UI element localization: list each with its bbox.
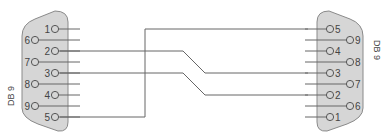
pin-number: 4 — [44, 90, 50, 101]
wire-l3-r2 — [60, 73, 308, 95]
right-connector-label: DB 9 — [372, 40, 382, 60]
pin-number: 2 — [335, 90, 341, 101]
null-modem-diagram: 162738495 594837261 DB 9 DB 9 — [0, 0, 387, 140]
pin-number: 5 — [44, 112, 50, 123]
pin-number: 8 — [24, 79, 30, 90]
pin-number: 4 — [335, 46, 341, 57]
pin-number: 9 — [24, 101, 30, 112]
pin-number: 5 — [335, 24, 341, 35]
pin-number: 2 — [44, 46, 50, 57]
pin-number: 3 — [44, 68, 50, 79]
pin-number: 1 — [44, 24, 50, 35]
pin-number: 7 — [24, 57, 30, 68]
pin-number: 6 — [24, 35, 30, 46]
pin-number: 6 — [355, 101, 361, 112]
pin-number: 3 — [335, 68, 341, 79]
pin-number: 7 — [355, 79, 361, 90]
wire-l2-r3 — [60, 51, 308, 73]
left-connector-label: DB 9 — [6, 86, 16, 106]
pin-number: 8 — [355, 57, 361, 68]
pin-number: 1 — [335, 112, 341, 123]
wires — [60, 29, 308, 117]
pin-number: 9 — [355, 35, 361, 46]
